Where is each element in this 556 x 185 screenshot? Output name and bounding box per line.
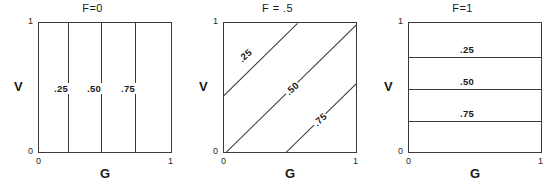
x-tick-left-p3: 0 xyxy=(406,156,411,166)
panel-title-f1: F=1 xyxy=(370,2,555,14)
panel-title-f0: F=0 xyxy=(0,2,185,14)
y-tick-top-p2: 1 xyxy=(213,16,218,26)
x-tick-right-p2: 1 xyxy=(353,156,358,166)
plot-area-f1: .25 .50 .75 xyxy=(408,22,542,153)
contour-label-050-p3: .50 xyxy=(459,76,475,87)
y-tick-bottom-p2: 0 xyxy=(213,146,218,156)
y-axis-label-p1: V xyxy=(14,79,23,94)
y-tick-bottom-p1: 0 xyxy=(28,146,33,156)
contour-figure: F=0 1 0 0 1 V G .25 .50 .75 F = .5 1 0 0… xyxy=(0,0,556,185)
x-axis-label-p3: G xyxy=(408,166,542,181)
panel-title-f05: F = .5 xyxy=(185,2,370,14)
contour-line-050-p3 xyxy=(408,89,542,90)
panel-f05: F = .5 1 0 0 1 V G .25 .50 .75 xyxy=(185,0,370,185)
contour-line-075-p3 xyxy=(408,121,542,122)
plot-area-f0: .25 .50 .75 xyxy=(38,22,172,153)
y-axis-label-p3: V xyxy=(384,79,393,94)
x-axis-label-p2: G xyxy=(223,166,357,181)
x-tick-left-p2: 0 xyxy=(221,156,226,166)
contour-label-025-p2: .25 xyxy=(235,46,254,65)
y-tick-bottom-p3: 0 xyxy=(398,146,403,156)
contour-label-075-p1: .75 xyxy=(120,83,136,94)
plot-area-f05: .25 .50 .75 xyxy=(223,22,357,153)
contour-label-025-p3: .25 xyxy=(459,44,475,55)
x-tick-right-p1: 1 xyxy=(168,156,173,166)
panel-f1: F=1 1 0 0 1 V G .25 .50 .75 xyxy=(370,0,555,185)
x-tick-right-p3: 1 xyxy=(538,156,543,166)
x-tick-left-p1: 0 xyxy=(36,156,41,166)
contour-label-050-p1: .50 xyxy=(86,83,102,94)
contour-line-025-p3 xyxy=(408,57,542,58)
contour-label-025-p1: .25 xyxy=(53,83,69,94)
panel-f0: F=0 1 0 0 1 V G .25 .50 .75 xyxy=(0,0,185,185)
y-tick-top-p3: 1 xyxy=(398,16,403,26)
contour-label-075-p3: .75 xyxy=(459,108,475,119)
x-axis-label-p1: G xyxy=(38,166,172,181)
y-axis-label-p2: V xyxy=(199,79,208,94)
y-tick-top-p1: 1 xyxy=(28,16,33,26)
